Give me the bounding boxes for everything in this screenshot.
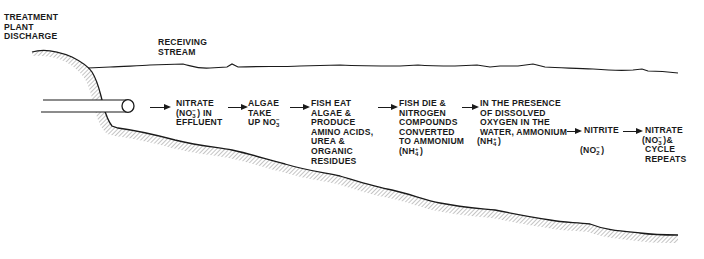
nitrate-formula: UP NO−3 — [248, 118, 281, 128]
flow-arrow — [228, 103, 248, 111]
nitrate-formula: (NO−3) IN — [176, 109, 222, 119]
nitrate-formula: (NO−3)& — [642, 136, 686, 146]
flow-arrow — [378, 103, 398, 111]
receiving-stream-label: RECEIVING STREAM — [158, 38, 207, 57]
treatment-plant-discharge-label: TREATMENT PLANT DISCHARGE — [4, 13, 58, 42]
nitrogen-cycle-diagram: TREATMENT PLANT DISCHARGE RECEIVING STRE… — [0, 0, 704, 259]
stream-water-surface — [88, 64, 678, 73]
pipe-outlet-opening — [122, 100, 134, 113]
ammonium-formula: (NH+4) — [399, 147, 464, 157]
step-dissolved-oxygen: IN THE PRESENCE OF DISSOLVED OXYGEN IN T… — [480, 99, 567, 137]
step-nitrite: NITRITE — [584, 126, 619, 136]
flow-arrow — [567, 127, 582, 135]
discharge-pipe — [41, 96, 134, 112]
flow-arrow — [150, 103, 171, 111]
flow-arrow — [623, 127, 643, 135]
flow-arrow — [462, 103, 479, 111]
step-algae-take-up: ALGAE TAKE UP NO−3 — [248, 99, 281, 128]
step-nitrate-cycle-repeats: NITRATE (NO−3)& CYCLE REPEATS — [645, 126, 686, 164]
step-fish-eat-algae: FISH EAT ALGAE & PRODUCE AMINO ACIDS, UR… — [311, 99, 373, 166]
flow-arrow — [290, 103, 310, 111]
step-fish-die: FISH DIE & NITROGEN COMPOUNDS CONVERTED … — [399, 99, 464, 157]
step-nitrate-in-effluent: NITRATE (NO−3) IN EFFLUENT — [176, 99, 222, 128]
